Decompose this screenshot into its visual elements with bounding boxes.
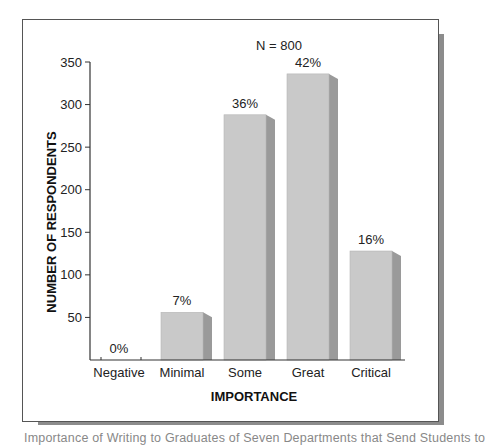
y-tick-label: 250: [60, 140, 82, 155]
x-tick-label: Some: [228, 365, 262, 380]
frame-shadow-right: [439, 34, 444, 425]
data-label: 36%: [232, 96, 258, 111]
data-label: 16%: [358, 232, 384, 247]
bar-side-some: [266, 115, 275, 360]
sample-size-annotation: N = 800: [256, 38, 302, 53]
data-label: 7%: [173, 293, 192, 308]
x-tick-label: Great: [292, 365, 325, 380]
data-label: 42%: [295, 55, 321, 70]
y-tick-label: 100: [60, 267, 82, 282]
bar-side-minimal: [203, 312, 212, 360]
y-axis-title: NUMBER OF RESPONDENTS: [44, 131, 59, 313]
bar-side-critical: [392, 251, 401, 360]
y-tick-label: 150: [60, 225, 82, 240]
x-tick-label: Negative: [93, 365, 144, 380]
y-tick-label: 50: [68, 310, 82, 325]
x-tick-label: Critical: [351, 365, 391, 380]
bar-side-great: [329, 74, 338, 360]
bar-some: [224, 115, 266, 360]
y-tick-label: 300: [60, 97, 82, 112]
bar-minimal: [161, 312, 203, 360]
x-axis-title: IMPORTANCE: [211, 389, 298, 404]
bar-critical: [350, 251, 392, 360]
data-label: 0%: [110, 341, 129, 356]
y-tick-label: 200: [60, 182, 82, 197]
bar-great: [287, 74, 329, 360]
figure-caption: Importance of Writing to Graduates of Se…: [24, 431, 485, 445]
y-tick-label: 350: [60, 55, 82, 70]
x-tick-label: Minimal: [160, 365, 205, 380]
